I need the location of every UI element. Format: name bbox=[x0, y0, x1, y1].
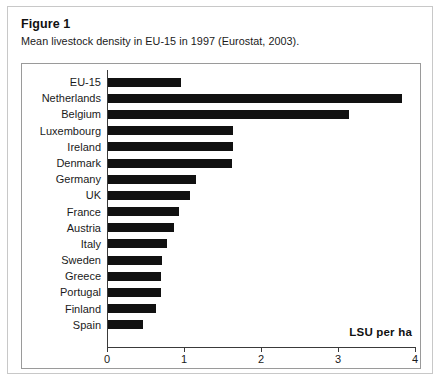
chart-plot-frame: EU-15NetherlandsBelgiumLuxembourgIreland… bbox=[21, 63, 421, 369]
bar-category-label: Germany bbox=[0, 171, 101, 187]
bar-row: EU-15 bbox=[22, 74, 420, 90]
bar-track bbox=[107, 191, 414, 200]
axis-unit-label: LSU per ha bbox=[349, 326, 412, 338]
bar-row: Belgium bbox=[22, 106, 420, 122]
bar-track bbox=[107, 142, 414, 151]
bar-track bbox=[107, 304, 414, 313]
bar-category-label: Greece bbox=[0, 268, 101, 284]
x-axis-tick-label: 0 bbox=[92, 353, 122, 365]
bar-category-label: Luxembourg bbox=[0, 123, 101, 139]
bar-category-label: Sweden bbox=[0, 252, 101, 268]
bar-category-label: UK bbox=[0, 187, 101, 203]
bar-track bbox=[107, 272, 414, 281]
bar-row: Denmark bbox=[22, 155, 420, 171]
bar-fill bbox=[107, 256, 162, 265]
x-axis-tick-label: 1 bbox=[169, 353, 199, 365]
bar-track bbox=[107, 288, 414, 297]
bar-row: Germany bbox=[22, 171, 420, 187]
x-axis-tick-label: 3 bbox=[323, 353, 353, 365]
bar-category-label: Ireland bbox=[0, 139, 101, 155]
figure-card: Figure 1 Mean livestock density in EU-15… bbox=[7, 6, 433, 374]
bar-fill bbox=[107, 126, 233, 135]
figure-caption: Mean livestock density in EU-15 in 1997 … bbox=[21, 34, 421, 48]
x-axis-tick bbox=[184, 347, 185, 352]
bar-track bbox=[107, 126, 414, 135]
bar-category-label: Netherlands bbox=[0, 90, 101, 106]
bar-fill bbox=[107, 239, 167, 248]
bar-row: Italy bbox=[22, 236, 420, 252]
bar-track bbox=[107, 256, 414, 265]
bar-fill bbox=[107, 320, 143, 329]
y-axis-line bbox=[107, 70, 108, 347]
bar-row: Ireland bbox=[22, 139, 420, 155]
bar-fill bbox=[107, 159, 232, 168]
bar-category-label: Belgium bbox=[0, 106, 101, 122]
bar-category-label: Denmark bbox=[0, 155, 101, 171]
bar-row: Netherlands bbox=[22, 90, 420, 106]
bar-track bbox=[107, 175, 414, 184]
bar-row: France bbox=[22, 204, 420, 220]
bar-fill bbox=[107, 78, 181, 87]
bar-row: UK bbox=[22, 187, 420, 203]
bar-fill bbox=[107, 94, 402, 103]
bar-row: Sweden bbox=[22, 252, 420, 268]
bar-fill bbox=[107, 191, 190, 200]
x-axis-tick bbox=[107, 347, 108, 352]
bar-row: Greece bbox=[22, 268, 420, 284]
x-axis-tick-label: 4 bbox=[400, 353, 430, 365]
bar-track bbox=[107, 94, 414, 103]
bar-track bbox=[107, 239, 414, 248]
bar-fill bbox=[107, 223, 174, 232]
bar-track bbox=[107, 207, 414, 216]
x-axis-tick bbox=[261, 347, 262, 352]
bar-category-label: Austria bbox=[0, 220, 101, 236]
chart-plot-area: EU-15NetherlandsBelgiumLuxembourgIreland… bbox=[22, 64, 420, 368]
bar-track bbox=[107, 78, 414, 87]
bar-row: Austria bbox=[22, 220, 420, 236]
bar-category-label: Finland bbox=[0, 301, 101, 317]
bar-category-label: France bbox=[0, 204, 101, 220]
bar-fill bbox=[107, 207, 179, 216]
bar-fill bbox=[107, 142, 233, 151]
bar-fill bbox=[107, 288, 161, 297]
figure-label: Figure 1 bbox=[21, 17, 421, 32]
bar-row: Luxembourg bbox=[22, 123, 420, 139]
bar-category-label: Spain bbox=[0, 317, 101, 333]
x-axis-tick bbox=[415, 347, 416, 352]
caption-block: Figure 1 Mean livestock density in EU-15… bbox=[21, 17, 421, 48]
bar-row: Finland bbox=[22, 301, 420, 317]
bar-fill bbox=[107, 272, 161, 281]
bar-rows: EU-15NetherlandsBelgiumLuxembourgIreland… bbox=[22, 74, 420, 333]
bar-row: Portugal bbox=[22, 284, 420, 300]
bar-track bbox=[107, 110, 414, 119]
x-axis-tick bbox=[338, 347, 339, 352]
bar-fill bbox=[107, 110, 349, 119]
bar-track bbox=[107, 223, 414, 232]
bar-fill bbox=[107, 175, 196, 184]
bar-fill bbox=[107, 304, 156, 313]
bar-category-label: Portugal bbox=[0, 284, 101, 300]
x-axis-tick-label: 2 bbox=[246, 353, 276, 365]
bar-track bbox=[107, 159, 414, 168]
bar-category-label: EU-15 bbox=[0, 74, 101, 90]
bar-category-label: Italy bbox=[0, 236, 101, 252]
